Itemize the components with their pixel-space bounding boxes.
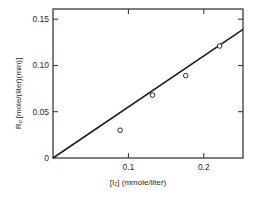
y-tick-labels: 0 0.05 0.10 0.15 [32,14,49,163]
data-point [217,44,222,49]
y-axis-label: Rₚ [mole/(liter)(min)] [14,58,23,129]
axis-ticks [53,9,243,158]
fit-line [53,29,243,158]
y-tick-label: 0.15 [32,14,49,24]
y-tick-label: 0.05 [32,107,49,117]
x-tick-labels: 0.1 0.2 [122,162,209,172]
data-point [118,128,123,133]
y-tick-label: 0.10 [32,60,49,70]
y-tick-label: 0 [44,153,49,163]
data-point [150,93,155,98]
fit-line-series [53,29,243,158]
x-tick-label: 0.1 [122,162,134,172]
plot-frame [53,9,243,158]
scatter-chart: 0 0.05 0.10 0.15 0.1 0.2 [I₂] (mmole/lit… [0,0,256,198]
x-axis-label: [I₂] (mmole/liter) [110,178,167,187]
data-point [183,73,188,78]
data-points [118,44,222,133]
x-tick-label: 0.2 [198,162,210,172]
plot-border [53,9,243,158]
